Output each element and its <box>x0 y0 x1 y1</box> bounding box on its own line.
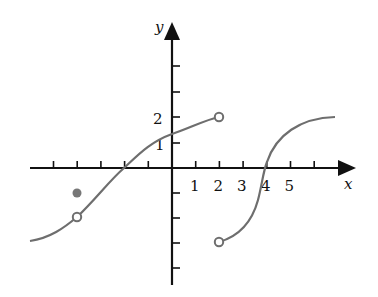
x-tick-label-1: 1 <box>190 177 200 195</box>
curve-piece-left <box>30 217 77 241</box>
y-axis-arrow-icon <box>164 22 180 40</box>
y-tick-label-2: 2 <box>153 110 163 128</box>
y-axis: 1 2 y <box>153 18 180 285</box>
open-point <box>215 238 223 246</box>
open-point <box>73 213 81 221</box>
x-tick-label-5: 5 <box>285 177 295 195</box>
x-axis-arrow-icon <box>338 160 356 176</box>
x-tick-label-3: 3 <box>237 177 247 195</box>
x-tick-label-2: 2 <box>214 177 224 195</box>
open-point <box>215 113 223 121</box>
filled-point <box>73 189 82 198</box>
graph-figure: 1 2 3 4 5 x 1 2 y <box>0 0 378 297</box>
y-axis-label: y <box>154 18 164 36</box>
x-axis-label: x <box>344 175 353 193</box>
